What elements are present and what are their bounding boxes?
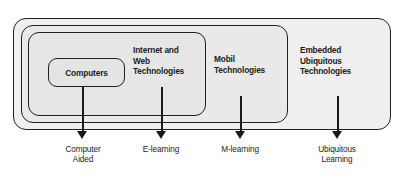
arrow-head-m-learning-icon [235,131,245,139]
caption-m-learning: M-learning [209,145,271,155]
box-label-mobil-technologies: Mobil Technologies [214,54,280,75]
arrow-head-e-learning-icon [156,131,166,139]
box-label-internet-and-web-technologies: Internet and Web Technologies [133,45,203,77]
arrow-shaft-computer-aided [82,87,84,133]
arrow-head-ubiquitous-learning-icon [332,131,342,139]
arrow-shaft-m-learning [240,96,242,133]
box-label-computers: Computers [65,68,107,78]
arrow-head-computer-aided-icon [77,131,87,139]
box-computers: Computers [48,58,125,87]
arrow-shaft-e-learning [161,87,163,133]
caption-e-learning: E-learning [130,145,192,155]
box-label-embedded-ubiquitous-technologies: Embedded Ubiquitous Technologies [300,45,382,77]
cropped-caption-strip [0,0,406,9]
technology-evolution-diagram: Computers Internet and Web Technologies … [0,0,406,180]
caption-ubiquitous-learning: Ubiquitous Learning [306,145,368,166]
arrow-shaft-ubiquitous-learning [337,96,339,133]
caption-computer-aided: Computer Aided [52,145,114,166]
